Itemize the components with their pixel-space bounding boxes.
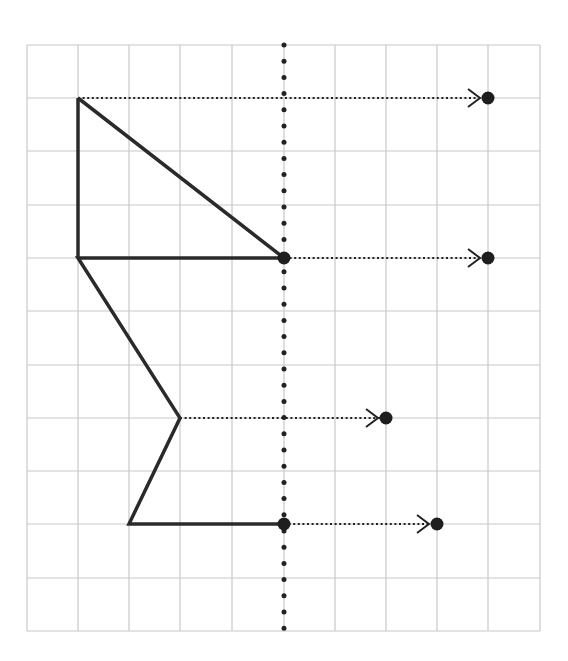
axis-dot [282,561,287,566]
axis-dot [282,610,287,615]
axis-dot [282,334,287,339]
axis-dot [282,512,287,517]
axis-dot [282,237,287,242]
axis-point [278,518,291,531]
axis-dot [282,140,287,145]
axis-dot [282,107,287,112]
axis-dot [282,480,287,485]
axis-dot [282,577,287,582]
axis-dot [282,415,287,420]
diagram-canvas [0,0,568,661]
axis-dot [282,626,287,631]
axis-dot [282,188,287,193]
axis-dot [282,221,287,226]
translated-point [482,92,495,105]
axis-dot [282,172,287,177]
translated-point [482,252,495,265]
axis-dot [282,286,287,291]
axis-dot [282,350,287,355]
axis-dot [282,367,287,372]
axis-dot [282,545,287,550]
axis-dot [282,205,287,210]
axis-dot [282,496,287,501]
axis-dot [282,383,287,388]
axis-dot [282,448,287,453]
axis-dot [282,399,287,404]
axis-dot [282,464,287,469]
translated-point [380,412,393,425]
axis-dot [282,91,287,96]
grid-diagram [0,0,568,661]
axis-dot [282,593,287,598]
axis-dot [282,43,287,48]
axis-dot [282,156,287,161]
axis-dot [282,59,287,64]
translated-point [431,518,444,531]
axis-dot [282,431,287,436]
axis-point [278,252,291,265]
axis-dot [282,302,287,307]
axis-dot [282,124,287,129]
axis-dot [282,75,287,80]
axis-dot [282,318,287,323]
axis-dot [282,269,287,274]
